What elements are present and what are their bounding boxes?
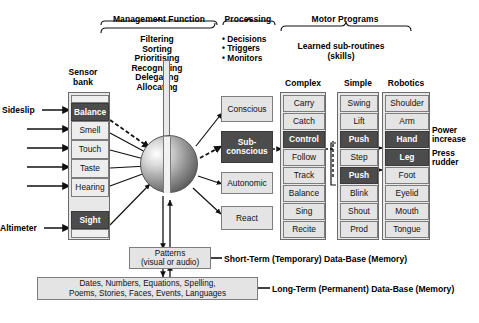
- motor-subtitle-line2: (skills): [276, 52, 406, 62]
- sensor-cell-balance[interactable]: Balance: [71, 103, 109, 121]
- sensor-bank-header-line2: bank: [56, 78, 110, 88]
- awareness-cell-react[interactable]: React: [221, 206, 273, 230]
- sensor-bank-header: Sensor bank: [56, 68, 110, 87]
- complex-stack: Carry Catch Control Follow Track Balance…: [280, 92, 326, 240]
- complex-cell-catch[interactable]: Catch: [283, 113, 325, 130]
- robotics-cell-tongue[interactable]: Tongue: [385, 221, 429, 238]
- awareness-cell-conscious[interactable]: Conscious: [221, 96, 273, 122]
- sensor-cell-touch[interactable]: Touch: [71, 140, 109, 159]
- sensor-input-arrows: [27, 110, 70, 228]
- awareness-cell-subconscious-line2: conscious: [226, 147, 267, 156]
- column-header-complex: Complex: [280, 78, 326, 88]
- column-header-robotics: Robotics: [382, 78, 430, 88]
- management-line-5: Allocating: [103, 83, 211, 93]
- robotics-cell-hand[interactable]: Hand: [385, 131, 429, 148]
- simple-cell-push-1[interactable]: Push: [340, 131, 378, 148]
- sensor-cell-blank-bottom: [71, 229, 109, 238]
- long-term-memory-box[interactable]: Dates, Numbers, Equations, Spelling, Poe…: [37, 277, 258, 300]
- robotics-cell-mouth[interactable]: Mouth: [385, 203, 429, 220]
- column-header-simple: Simple: [337, 78, 379, 88]
- group-title-processing: Processing: [222, 14, 274, 24]
- input-label-altimeter: Altimeter: [0, 223, 37, 233]
- short-term-memory-box[interactable]: Patterns (visual or audio): [129, 247, 211, 269]
- complex-cell-control[interactable]: Control: [283, 131, 325, 148]
- robotics-cell-foot[interactable]: Foot: [385, 167, 429, 184]
- output-press-rudder-line2: rudder: [432, 158, 459, 167]
- sensor-cell-sight[interactable]: Sight: [71, 211, 109, 229]
- simple-cell-push-2[interactable]: Push: [340, 167, 378, 184]
- robotics-cell-shoulder[interactable]: Shoulder: [385, 95, 429, 112]
- short-term-memory-line1: Patterns: [155, 249, 186, 258]
- complex-cell-balance[interactable]: Balance: [283, 185, 325, 202]
- simple-cell-lift[interactable]: Lift: [340, 113, 378, 130]
- short-term-memory-line2: (visual or audio): [141, 258, 199, 267]
- long-term-memory-line1: Dates, Numbers, Equations, Spelling,: [79, 279, 215, 288]
- simple-cell-blink[interactable]: Blink: [340, 185, 378, 202]
- simple-cell-prod[interactable]: Prod: [340, 221, 378, 238]
- robotics-cell-leg[interactable]: Leg: [385, 149, 429, 166]
- output-power-increase: Power increase: [432, 126, 466, 144]
- simple-cell-shout[interactable]: Shout: [340, 203, 378, 220]
- complex-cell-recite[interactable]: Recite: [283, 221, 325, 238]
- complex-cell-follow[interactable]: Follow: [283, 149, 325, 166]
- awareness-cell-subconscious[interactable]: Sub- conscious: [221, 131, 273, 163]
- sensor-cell-blank-top: [71, 95, 109, 103]
- input-label-sideslip: Sideslip: [2, 105, 35, 115]
- complex-cell-carry[interactable]: Carry: [283, 95, 325, 112]
- awareness-cell-autonomic[interactable]: Autonomic: [221, 172, 273, 194]
- sensor-cell-taste[interactable]: Taste: [71, 159, 109, 178]
- sensor-cell-smell[interactable]: Smell: [71, 121, 109, 140]
- processing-bullet-2-label: Monitors: [227, 53, 262, 63]
- complex-cell-sing[interactable]: Sing: [283, 203, 325, 220]
- management-function-list: Filtering Sorting Prioritising Recognisi…: [103, 35, 211, 93]
- short-term-memory-label: Short-Term (Temporary) Data-Base (Memory…: [224, 254, 407, 264]
- simple-stack: Swing Lift Push Step Push Blink Shout Pr…: [337, 92, 379, 240]
- diagram-canvas: Management Function Processing Motor Pro…: [0, 0, 479, 323]
- motor-subtitle: Learned sub-routines (skills): [276, 42, 406, 61]
- processing-bullet-2: • Monitors: [222, 54, 266, 63]
- simple-cell-step[interactable]: Step: [340, 149, 378, 166]
- output-power-increase-line2: increase: [432, 135, 466, 144]
- group-title-management: Management Function: [104, 14, 214, 24]
- long-term-memory-line2: Poems, Stories, Faces, Events, Languages: [69, 289, 226, 298]
- output-press-rudder: Press rudder: [432, 149, 459, 167]
- robotics-cell-arm[interactable]: Arm: [385, 113, 429, 130]
- brace-management-lower: [101, 23, 215, 33]
- processing-bullet-list: • Decisions • Triggers • Monitors: [222, 35, 266, 63]
- long-term-memory-label: Long-Term (Permanent) Data-Base (Memory): [272, 284, 454, 294]
- sensor-bank-stack: Balance Smell Touch Taste Hearing Sight: [68, 92, 110, 240]
- group-title-motor: Motor Programs: [284, 14, 406, 24]
- robotics-stack: Shoulder Arm Hand Leg Foot Eyelid Mouth …: [382, 92, 430, 240]
- complex-cell-track[interactable]: Track: [283, 167, 325, 184]
- awareness-column: Conscious Sub- conscious Autonomic React: [221, 96, 273, 230]
- simple-cell-swing[interactable]: Swing: [340, 95, 378, 112]
- robotics-cell-eyelid[interactable]: Eyelid: [385, 185, 429, 202]
- sensor-cell-hearing[interactable]: Hearing: [71, 178, 109, 197]
- brain-split-bar: [163, 137, 171, 193]
- push-group-bracket: [331, 143, 336, 185]
- control-to-push-bracket: [325, 141, 333, 177]
